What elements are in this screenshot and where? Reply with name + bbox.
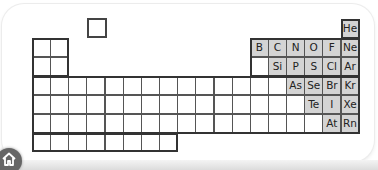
empty-cell (268, 114, 287, 133)
empty-cell (32, 38, 51, 57)
empty-cell (32, 95, 51, 114)
element-cell-b: B (250, 38, 269, 57)
empty-cell (214, 95, 233, 114)
element-cell-te: Te (304, 95, 323, 114)
empty-cell (105, 133, 124, 152)
hydrogen-square (87, 18, 107, 38)
empty-cell (177, 114, 196, 133)
element-cell-xe: Xe (341, 95, 360, 114)
empty-cell (250, 76, 269, 95)
empty-cell (50, 133, 69, 152)
element-cell-i: I (322, 95, 341, 114)
element-cell-p: P (286, 57, 305, 76)
empty-cell (195, 95, 214, 114)
empty-cell (86, 76, 105, 95)
element-cell-n: N (286, 38, 305, 57)
element-cell-o: O (304, 38, 323, 57)
empty-cell (68, 76, 87, 95)
empty-cell (32, 114, 51, 133)
empty-cell (268, 76, 287, 95)
empty-cell (50, 76, 69, 95)
empty-cell (214, 114, 233, 133)
empty-cell (250, 57, 269, 76)
element-cell-cl: Cl (322, 57, 341, 76)
empty-cell (68, 95, 87, 114)
element-cell-c: C (268, 38, 287, 57)
element-cell-ar: Ar (341, 57, 360, 76)
element-cell-se: Se (304, 76, 323, 95)
empty-cell (286, 95, 305, 114)
empty-cell (32, 133, 51, 152)
empty-cell (141, 95, 160, 114)
empty-cell (268, 95, 287, 114)
empty-cell (159, 95, 178, 114)
empty-cell (141, 114, 160, 133)
empty-cell (141, 76, 160, 95)
element-cell-rn: Rn (341, 114, 360, 133)
empty-cell (68, 133, 87, 152)
element-cell-s: S (304, 57, 323, 76)
empty-cell (177, 76, 196, 95)
empty-cell (123, 114, 142, 133)
empty-cell (50, 95, 69, 114)
empty-cell (50, 57, 69, 76)
empty-cell (123, 95, 142, 114)
empty-cell (159, 76, 178, 95)
element-cell-kr: Kr (341, 76, 360, 95)
empty-cell (159, 133, 178, 152)
empty-cell (123, 133, 142, 152)
element-cell-at: At (322, 114, 341, 133)
empty-cell (286, 114, 305, 133)
element-cell-f: F (322, 38, 341, 57)
empty-cell (50, 114, 69, 133)
home-icon (1, 151, 17, 167)
empty-cell (232, 114, 251, 133)
empty-cell (86, 95, 105, 114)
empty-cell (177, 95, 196, 114)
empty-cell (232, 95, 251, 114)
empty-cell (105, 95, 124, 114)
empty-cell (32, 76, 51, 95)
empty-cell (250, 95, 269, 114)
empty-cell (304, 114, 323, 133)
empty-cell (195, 76, 214, 95)
empty-cell (86, 133, 105, 152)
empty-cell (141, 133, 160, 152)
empty-cell (68, 114, 87, 133)
empty-cell (250, 114, 269, 133)
element-cell-he: He (341, 19, 360, 38)
empty-cell (159, 114, 178, 133)
footer-band (0, 160, 378, 170)
element-cell-si: Si (268, 57, 287, 76)
empty-cell (86, 114, 105, 133)
empty-cell (32, 57, 51, 76)
empty-cell (195, 114, 214, 133)
empty-cell (50, 38, 69, 57)
empty-cell (214, 76, 233, 95)
empty-cell (105, 76, 124, 95)
element-cell-ne: Ne (341, 38, 360, 57)
empty-cell (123, 76, 142, 95)
element-cell-br: Br (322, 76, 341, 95)
empty-cell (232, 76, 251, 95)
empty-cell (105, 114, 124, 133)
element-cell-as: As (286, 76, 305, 95)
